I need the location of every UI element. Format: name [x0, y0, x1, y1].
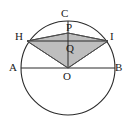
- point-label-Q: Q: [66, 43, 74, 54]
- point-label-B: B: [115, 62, 122, 73]
- point-label-O: O: [63, 71, 71, 82]
- point-label-H: H: [15, 31, 23, 42]
- point-label-I: I: [110, 31, 114, 42]
- geometry-figure: A B C H I O P Q: [0, 0, 131, 122]
- point-label-A: A: [9, 62, 17, 73]
- point-label-P: P: [66, 22, 72, 33]
- point-label-C: C: [61, 8, 68, 19]
